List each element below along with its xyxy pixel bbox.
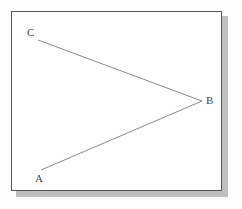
- vertex-label-a: A: [35, 173, 43, 184]
- figure-root: C B A: [0, 0, 242, 209]
- segment-ab: [41, 101, 202, 170]
- segment-cb: [38, 40, 202, 101]
- vertex-label-b: B: [206, 95, 214, 106]
- vertex-label-c: C: [27, 27, 35, 38]
